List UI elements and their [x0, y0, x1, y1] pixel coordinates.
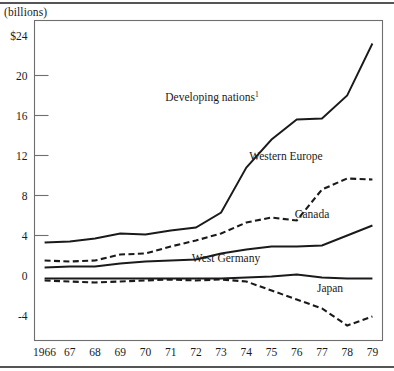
x-tick-label: 71: [165, 346, 177, 358]
line-chart-plot: $24201612840-4 1966676869707172737475767…: [0, 0, 394, 371]
y-tick-label: 20: [16, 70, 28, 82]
y-tick-label: 12: [16, 150, 28, 162]
x-tick-label: 76: [291, 346, 303, 358]
x-axis-labels: 196667686970717273747576777879: [33, 346, 378, 358]
y-axis-labels: $24201612840-4: [10, 30, 28, 322]
x-tick-label: 72: [190, 346, 202, 358]
x-tick-label: 79: [367, 346, 379, 358]
x-tick-label: 73: [215, 346, 227, 358]
chart-figure: (billions) $24201612840-4 19666768697071…: [0, 0, 394, 371]
x-tick-label: 77: [316, 346, 328, 358]
series-label-west-germany: West Germany: [192, 252, 261, 265]
x-tick-label: 78: [341, 346, 353, 358]
series-annotations: Developing nations1Western EuropeCanadaW…: [165, 90, 343, 295]
y-tick-label: 16: [16, 110, 28, 122]
y-tick-label: 0: [22, 270, 28, 282]
x-tick-label: 67: [64, 346, 76, 358]
x-tick-label: 1966: [33, 346, 56, 358]
x-tick-label: 68: [89, 346, 101, 358]
x-tick-label: 75: [266, 346, 278, 358]
y-tick-label: $24: [10, 30, 28, 42]
series-label-canada: Canada: [295, 208, 329, 220]
y-tick-label: 4: [22, 230, 28, 242]
series-line-west-germany: [45, 275, 373, 279]
series-label-developing-nations: Developing nations1: [165, 90, 259, 104]
x-tick-label: 70: [140, 346, 152, 358]
y-tick-label: 8: [22, 190, 28, 202]
series-label-japan: Japan: [317, 282, 343, 295]
x-tick-label: 69: [114, 346, 126, 358]
y-tick-label: -4: [18, 310, 28, 322]
y-axis-ticks: [35, 76, 49, 236]
x-tick-label: 74: [241, 346, 253, 358]
series-label-western-europe: Western Europe: [249, 150, 322, 163]
